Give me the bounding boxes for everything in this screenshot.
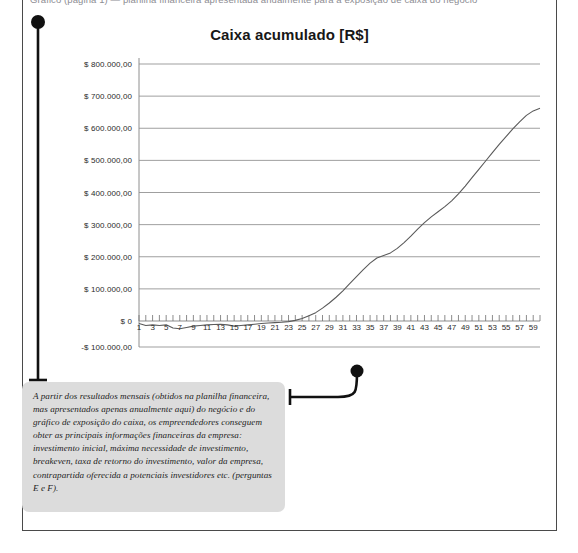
y-axis-tick-label: -$ 100.000,00	[81, 343, 132, 352]
y-axis-tick-label: $ 500.000,00	[84, 156, 132, 165]
callout-leader-right	[278, 360, 388, 420]
y-axis-tick-label: $ 300.000,00	[84, 220, 132, 229]
annotation-callout: A partir dos resultados mensais (obtidos…	[22, 382, 285, 512]
y-axis-tick-label: $ 400.000,00	[84, 188, 132, 197]
annotation-text: A partir dos resultados mensais (obtidos…	[33, 390, 273, 495]
plot-area: $ 800.000,00$ 700.000,00$ 600.000,00$ 50…	[22, 0, 557, 360]
x-axis-tick-label: 59	[523, 323, 543, 332]
y-axis-tick-label: $ 700.000,00	[84, 92, 132, 101]
chart-figure: Caixa acumulado [R$] $ 800.000,00$ 700.0…	[22, 0, 557, 360]
callout-leader-left	[8, 0, 68, 400]
chart-svg	[22, 0, 557, 360]
y-axis-tick-label: $ 100.000,00	[84, 284, 132, 293]
y-axis-tick-label: $ 800.000,00	[84, 60, 132, 69]
y-axis-tick-label: $ 200.000,00	[84, 252, 132, 261]
y-axis-tick-label: $ 600.000,00	[84, 124, 132, 133]
